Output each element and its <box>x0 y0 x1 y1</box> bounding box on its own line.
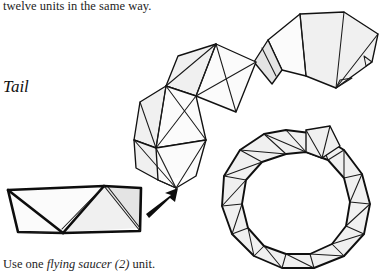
continuation-text: twelve units in the same way. <box>3 0 152 14</box>
origami-artwork <box>0 0 384 275</box>
caption-emphasis: flying saucer (2) <box>47 257 130 271</box>
figure-caption: Use one flying saucer (2) unit. <box>3 258 155 272</box>
flying-saucer-unit-diagram <box>8 186 141 233</box>
tail-ring-assembly <box>222 126 370 268</box>
tail-chain-assembly <box>134 12 378 188</box>
caption-prefix: Use one <box>3 257 47 271</box>
assembly-arrow <box>146 188 178 218</box>
origami-instruction-page: twelve units in the same way. Tail Use o… <box>0 0 384 275</box>
page-title: Tail <box>3 78 29 97</box>
caption-suffix: unit. <box>129 257 155 271</box>
